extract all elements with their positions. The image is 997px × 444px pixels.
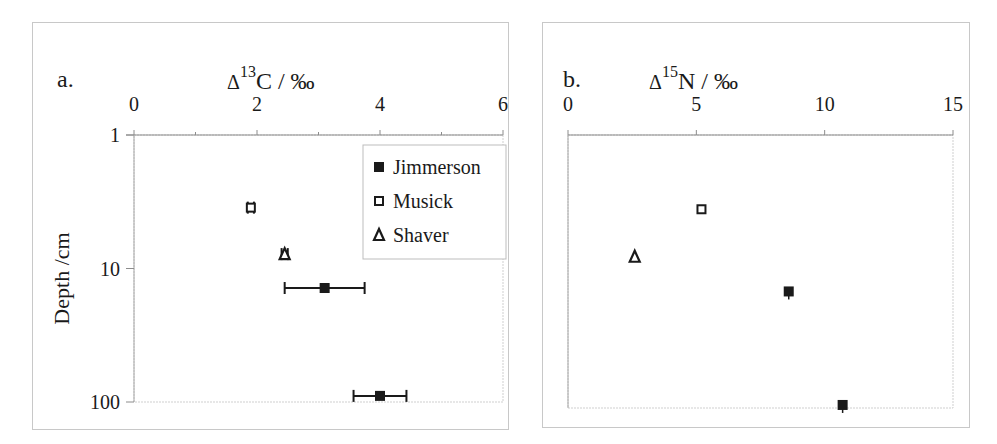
series-shaver (280, 248, 290, 260)
axis-title-superscript: 15 (662, 63, 678, 80)
legend-marker-jimmerson (374, 162, 384, 172)
series-musick (697, 205, 705, 213)
axis-title: Δ15N / ‰ (649, 63, 738, 94)
axis-title: Δ13C / ‰ (227, 63, 315, 94)
y-axis-label: Depth /cm (49, 232, 74, 324)
x-tick-label: 5 (691, 93, 701, 115)
data-point-shaver (630, 251, 640, 262)
chart-panel-a: a.Δ13C / ‰0246110100Depth /cmJimmersonMu… (32, 22, 509, 430)
chart-panel-b: b.Δ15N / ‰051015 (542, 22, 970, 428)
data-point-jimmerson (320, 283, 330, 293)
y-tick-label: 10 (100, 258, 120, 280)
x-tick-label: 0 (563, 93, 573, 115)
series-jimmerson (285, 282, 407, 402)
plot-area-a: a.Δ13C / ‰0246110100Depth /cmJimmersonMu… (33, 23, 510, 431)
legend-marker-musick (375, 197, 383, 205)
data-point-jimmerson (784, 286, 794, 296)
plot-frame (568, 135, 953, 408)
x-tick-label: 4 (375, 93, 385, 115)
axis-title-delta: Δ (649, 71, 662, 93)
panel-label: a. (57, 66, 74, 92)
plot-area-b: b.Δ15N / ‰051015 (543, 23, 971, 429)
axis-title-unit: C / ‰ (256, 68, 315, 94)
x-tick-label: 15 (943, 93, 963, 115)
y-tick-label: 1 (110, 124, 120, 146)
legend-label: Musick (393, 190, 453, 212)
axis-title-delta: Δ (227, 71, 240, 93)
x-tick-label: 2 (252, 93, 262, 115)
legend: JimmersonMusickShaver (363, 145, 506, 259)
series-shaver (630, 251, 640, 262)
legend-label: Shaver (393, 224, 449, 246)
data-point-musick (247, 204, 255, 212)
x-tick-label: 0 (129, 93, 139, 115)
series-jimmerson (784, 286, 848, 413)
x-tick-label: 6 (498, 93, 508, 115)
axis-title-superscript: 13 (240, 63, 256, 80)
axis-title-unit: N / ‰ (678, 68, 738, 94)
data-point-jimmerson (375, 391, 385, 401)
legend-label: Jimmerson (393, 156, 481, 178)
data-point-jimmerson (838, 400, 848, 410)
y-tick-label: 100 (90, 391, 120, 413)
series-musick (247, 202, 255, 214)
x-tick-label: 10 (815, 93, 835, 115)
panel-label: b. (563, 66, 581, 92)
data-point-musick (697, 205, 705, 213)
